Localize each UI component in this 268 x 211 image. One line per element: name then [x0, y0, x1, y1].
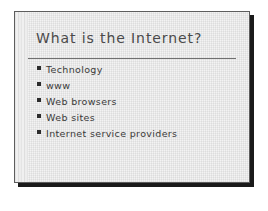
list-item-label: Web browsers — [46, 94, 117, 110]
square-bullet-icon — [37, 66, 41, 70]
list-item: Internet service providers — [37, 126, 177, 142]
list-item-label: Technology — [46, 62, 103, 78]
list-item: Web browsers — [37, 94, 177, 110]
list-item-label: Internet service providers — [46, 126, 177, 142]
slide-content-area: What is the Internet? Technology www Web… — [28, 12, 249, 182]
square-bullet-icon — [37, 130, 41, 134]
page-canvas: What is the Internet? Technology www Web… — [0, 0, 268, 211]
square-bullet-icon — [37, 114, 41, 118]
slide-title: What is the Internet? — [36, 30, 202, 46]
title-divider-rule — [28, 58, 236, 59]
square-bullet-icon — [37, 98, 41, 102]
list-item-label: Web sites — [46, 110, 95, 126]
list-item: Web sites — [37, 110, 177, 126]
square-bullet-icon — [37, 82, 41, 86]
slide-left-band — [15, 12, 28, 182]
presentation-slide: What is the Internet? Technology www Web… — [14, 11, 250, 183]
list-item-label: www — [46, 78, 70, 94]
bullet-list: Technology www Web browsers Web sites In — [37, 62, 177, 142]
list-item: www — [37, 78, 177, 94]
list-item: Technology — [37, 62, 177, 78]
